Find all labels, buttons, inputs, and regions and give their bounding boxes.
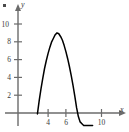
x-axis-label: x <box>120 106 124 114</box>
parabola-curve <box>37 33 92 126</box>
parabola-plot <box>0 0 129 132</box>
y-tick-label-10: 10 <box>0 21 9 29</box>
y-tick-label-8: 8 <box>0 38 11 46</box>
y-tick-label-2: 2 <box>0 92 11 100</box>
graph-figure: y x 2 4 6 8 10 4 6 10 <box>0 0 129 132</box>
y-tick-label-4: 4 <box>0 74 11 82</box>
y-tick-label-6: 6 <box>0 56 11 64</box>
x-tick-label-6: 6 <box>60 119 72 127</box>
x-tick-label-4: 4 <box>42 119 54 127</box>
x-tick-label-10: 10 <box>96 119 108 127</box>
y-axis-label: y <box>21 1 25 9</box>
